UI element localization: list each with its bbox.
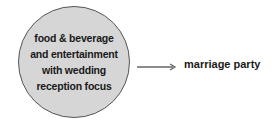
source-line-4: reception focus [30, 78, 118, 94]
target-label: marriage party [184, 58, 260, 70]
source-line-3: with wedding [30, 62, 118, 78]
source-node-circle: food & beverage and entertainment with w… [18, 6, 130, 118]
source-line-2: and entertainment [30, 46, 118, 62]
arrow-right-icon [137, 62, 179, 72]
source-node-text: food & beverage and entertainment with w… [30, 30, 118, 94]
source-line-1: food & beverage [30, 30, 118, 46]
